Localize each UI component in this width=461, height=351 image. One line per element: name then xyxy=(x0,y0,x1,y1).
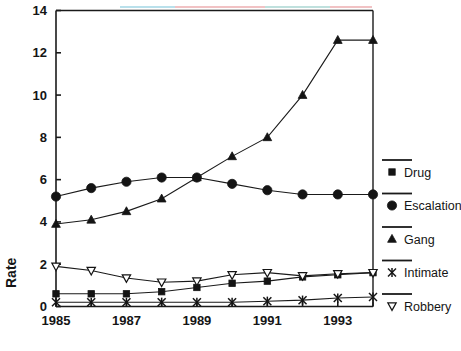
chart-container: 02468101214 19851987198919911993 Rate Dr… xyxy=(0,0,461,351)
y-axis-tick-labels: 02468101214 xyxy=(33,3,48,314)
series-line xyxy=(56,266,373,282)
data-point-triangle-up-filled xyxy=(369,36,378,44)
data-point-square-filled xyxy=(53,291,59,297)
data-point-triangle-down-open xyxy=(157,279,165,287)
legend-marker-drug xyxy=(389,169,395,175)
series-layer xyxy=(51,36,377,307)
x-tick-label: 1989 xyxy=(182,313,211,328)
data-point-square-filled xyxy=(158,289,164,295)
y-tick-label: 12 xyxy=(33,45,47,60)
data-point-triangle-down-open xyxy=(388,303,396,311)
x-tick-label: 1987 xyxy=(112,313,141,328)
legend-marker-robbery xyxy=(388,303,396,311)
series-escalation xyxy=(51,173,377,201)
series-line xyxy=(56,297,373,302)
series-intimate xyxy=(52,292,377,306)
data-point-circle-filled xyxy=(387,201,396,210)
data-point-square-filled xyxy=(88,291,94,297)
data-point-circle-filled xyxy=(228,179,237,188)
data-point-triangle-up-filled xyxy=(298,90,307,98)
legend-marker-intimate xyxy=(388,268,396,277)
y-tick-label: 10 xyxy=(33,88,47,103)
y-tick-label: 2 xyxy=(40,257,47,272)
data-point-asterisk xyxy=(388,268,396,277)
data-point-circle-filled xyxy=(333,190,342,199)
data-point-circle-filled xyxy=(368,190,377,199)
x-axis-tick-labels: 19851987198919911993 xyxy=(42,313,353,328)
y-tick-label: 14 xyxy=(33,3,48,18)
data-point-circle-filled xyxy=(298,190,307,199)
legend-marker-gang xyxy=(388,234,397,242)
data-point-triangle-up-filled xyxy=(157,194,166,202)
y-tick-label: 8 xyxy=(40,130,47,145)
series-line xyxy=(56,40,373,224)
chart-legend: DrugEscalationGangIntimateRobbery xyxy=(382,160,461,314)
data-point-square-filled xyxy=(389,169,395,175)
data-point-square-filled xyxy=(229,280,235,286)
data-point-triangle-up-filled xyxy=(333,36,342,44)
data-point-triangle-up-filled xyxy=(228,152,237,160)
data-point-circle-filled xyxy=(87,184,96,193)
data-point-circle-filled xyxy=(263,186,272,195)
series-line xyxy=(56,273,373,294)
y-tick-label: 4 xyxy=(40,214,48,229)
line-chart: 02468101214 19851987198919911993 Rate Dr… xyxy=(0,0,461,351)
legend-label-intimate: Intimate xyxy=(404,266,449,280)
data-point-triangle-up-filled xyxy=(388,234,397,242)
legend-marker-escalation xyxy=(387,201,396,210)
x-tick-label: 1991 xyxy=(253,313,282,328)
data-point-circle-filled xyxy=(51,192,60,201)
legend-label-escalation: Escalation xyxy=(404,199,461,213)
data-point-circle-filled xyxy=(122,177,131,186)
series-drug xyxy=(53,269,376,297)
data-point-square-filled xyxy=(264,278,270,284)
legend-label-drug: Drug xyxy=(404,166,431,180)
x-tick-label: 1985 xyxy=(42,313,71,328)
legend-label-robbery: Robbery xyxy=(404,300,452,314)
series-gang xyxy=(52,36,378,228)
x-tick-label: 1993 xyxy=(323,313,352,328)
plot-frame xyxy=(56,11,373,307)
series-line xyxy=(56,178,373,197)
data-point-square-filled xyxy=(123,291,129,297)
data-point-circle-filled xyxy=(157,173,166,182)
y-tick-label: 6 xyxy=(40,172,47,187)
legend-label-gang: Gang xyxy=(404,233,435,247)
y-axis-title: Rate xyxy=(3,257,19,288)
